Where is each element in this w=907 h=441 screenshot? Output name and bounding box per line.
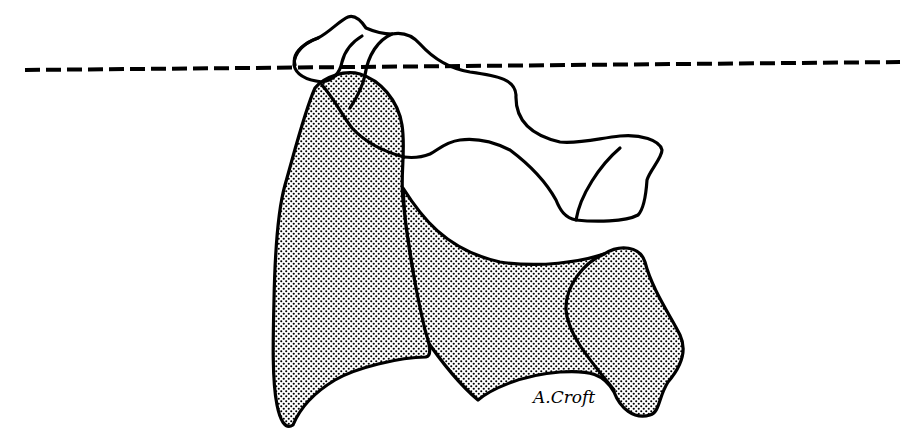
signature-text: A.Croft bbox=[531, 387, 595, 407]
lower-shaded-bone bbox=[403, 188, 683, 416]
anatomical-diagram: A.Croft bbox=[0, 0, 907, 441]
artist-signature: A.Croft bbox=[531, 387, 595, 407]
upper-inner-lobe bbox=[576, 148, 620, 220]
